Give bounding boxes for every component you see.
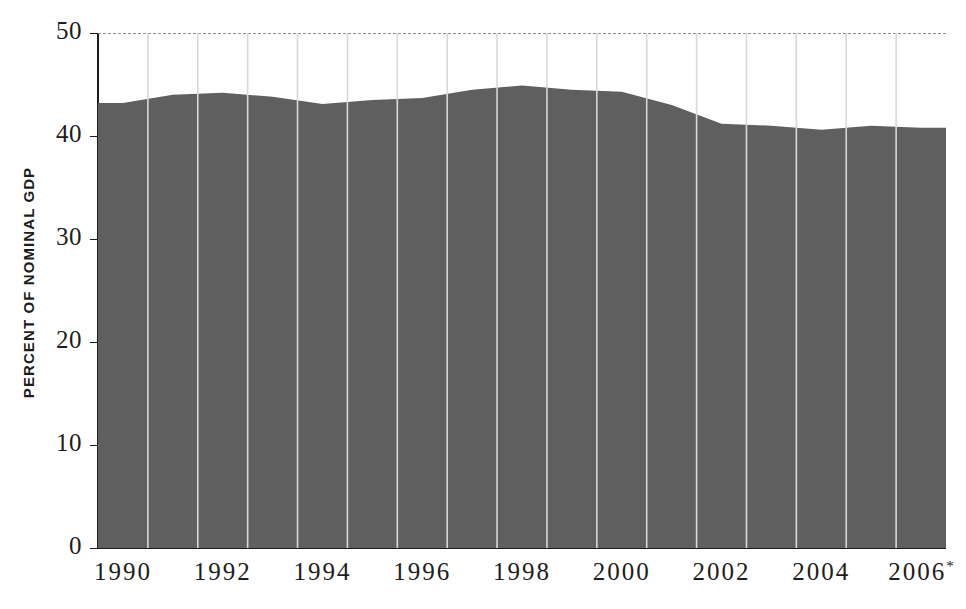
area-polygon	[98, 86, 946, 548]
y-tick-label-0: 0	[22, 532, 82, 560]
x-tick-label-2006: 2006*	[861, 558, 966, 586]
y-tick-label-10: 10	[22, 429, 82, 457]
chart-canvas: PERCENT OF NOMINAL GDP 01020304050 19901…	[0, 0, 966, 609]
y-tick-label-50: 50	[22, 17, 82, 45]
y-axis-title: PERCENT OF NOMINAL GDP	[20, 103, 37, 463]
plot-area	[98, 33, 946, 548]
area-series	[98, 33, 946, 548]
footnote-marker: *	[946, 558, 954, 574]
y-tick-label-30: 30	[22, 223, 82, 251]
y-tick-mark-0	[90, 548, 99, 549]
y-tick-label-40: 40	[22, 120, 82, 148]
y-tick-label-20: 20	[22, 326, 82, 354]
